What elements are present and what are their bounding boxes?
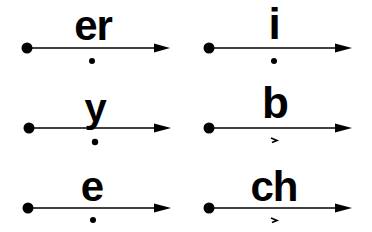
panel-b: b	[186, 76, 372, 153]
panel-i: i	[186, 0, 372, 77]
panel-er: er	[0, 0, 186, 77]
letter-label: i	[268, 2, 279, 46]
short-stroke-mark-icon	[271, 218, 277, 223]
panel-e: e	[0, 152, 186, 229]
letter-label: b	[262, 81, 288, 125]
dot-mark-icon	[92, 139, 98, 145]
dot-mark-icon	[271, 58, 277, 64]
letter-label: e	[81, 166, 103, 208]
letter-label: ch	[250, 166, 297, 208]
letter-label: er	[74, 5, 112, 47]
dot-mark-icon	[90, 217, 96, 223]
panel-y: y	[0, 76, 186, 153]
dot-mark-icon	[89, 58, 95, 64]
panel-ch: ch	[186, 152, 372, 229]
letter-label: y	[84, 88, 105, 128]
short-stroke-mark-icon	[271, 138, 277, 143]
